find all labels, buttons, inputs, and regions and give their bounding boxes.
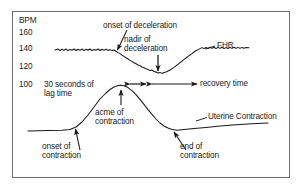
axis-tick-140: 140 (19, 44, 32, 53)
label-acme-of-contraction: acme of contraction (95, 108, 134, 127)
label-lag-time: 30 seconds of lag time (44, 80, 94, 99)
axis-unit-label: BPM (19, 16, 36, 25)
label-fhr: FHR (217, 41, 234, 50)
figure-root: BPM 160 140 120 100 onset of deceleratio… (0, 0, 303, 190)
label-onset-of-deceleration: onset of deceleration (103, 21, 177, 30)
label-nadir-of-deceleration: nadir of deceleration (124, 35, 167, 54)
axis-tick-120: 120 (19, 62, 32, 71)
label-onset-of-contraction: onset of contraction (42, 142, 81, 161)
label-uterine-contraction: Uterine Contraction (208, 112, 277, 121)
label-recovery-time: recovery time (200, 79, 248, 88)
axis-tick-100: 100 (19, 80, 32, 89)
uterine-contraction-leader-line (196, 118, 207, 122)
axis-tick-160: 160 (19, 28, 32, 37)
label-end-of-contraction: end of contraction (180, 142, 219, 161)
